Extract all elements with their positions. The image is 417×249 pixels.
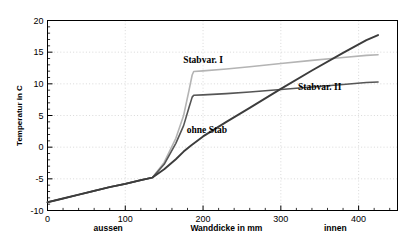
y-tick-label: -10 — [30, 206, 43, 216]
y-axis-tick-labels: -10-505101520 — [30, 16, 43, 216]
chart-figure: -10-505101520 0100200300400 Stabvar. ISt… — [0, 0, 417, 249]
axis-captions: aussenWanddicke in mminnen — [94, 223, 347, 233]
series-line-stabvar-ii — [48, 82, 379, 202]
y-tick-label: 20 — [33, 16, 43, 26]
plot-frame — [48, 21, 398, 211]
y-tick-label: -5 — [35, 174, 43, 184]
series-label-stabvar-i: Stabvar. I — [183, 55, 223, 65]
y-tick-label: 10 — [33, 79, 43, 89]
temperature-wall-thickness-chart: -10-505101520 0100200300400 Stabvar. ISt… — [0, 0, 417, 249]
series-label-stabvar-ii: Stabvar. II — [298, 82, 342, 92]
x-tick-label: 400 — [351, 214, 366, 224]
series-label-ohne-stab: ohne Stab — [187, 125, 227, 135]
y-tick-label: 15 — [33, 47, 43, 57]
y-axis-title: Temperatur in C — [15, 85, 24, 146]
axis-caption-aussen: aussen — [94, 223, 123, 233]
y-tick-label: 0 — [38, 142, 43, 152]
x-tick-label: 0 — [45, 214, 50, 224]
gridlines — [48, 21, 398, 211]
axis-caption-wanddicke-in-mm: Wanddicke in mm — [190, 223, 262, 233]
y-tick-label: 5 — [38, 111, 43, 121]
x-tick-label: 300 — [273, 214, 288, 224]
axis-caption-innen: innen — [324, 223, 347, 233]
